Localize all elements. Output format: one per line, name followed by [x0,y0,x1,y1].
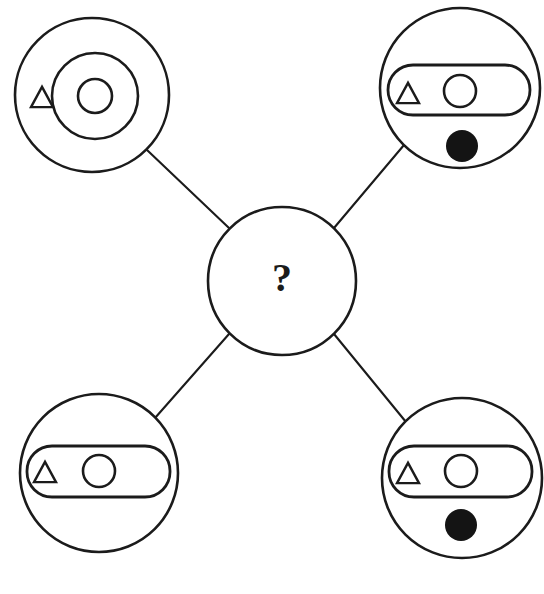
node-bottom-right[interactable] [382,398,542,558]
center-node-question-mark: ? [272,255,292,300]
diagram-canvas: ? [0,0,544,594]
node-bottom-left-circle-icon [83,455,115,487]
edge-top-left-to-center [147,150,229,228]
node-top-right[interactable] [380,8,540,168]
center-node[interactable]: ? [208,207,356,355]
edge-top-right-to-center [334,145,404,228]
node-bottom-right-circle-icon [445,455,477,487]
node-bottom-right-filled-dot-icon [445,509,477,541]
node-top-right-circle-icon [444,75,476,107]
edge-bottom-left-to-center [155,334,229,418]
node-top-right-filled-dot-icon [446,130,478,162]
node-bottom-left[interactable] [20,394,178,552]
node-top-left-circle-icon [78,79,112,113]
node-top-left[interactable] [15,18,169,172]
edge-bottom-right-to-center [334,334,406,422]
radial-diagram: ? [0,0,544,594]
